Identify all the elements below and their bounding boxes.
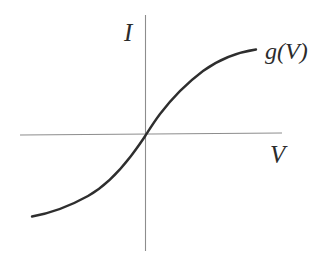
x-axis-label: V — [270, 142, 285, 167]
figure-container: I V g(V) — [0, 0, 329, 264]
curve-label: g(V) — [265, 39, 308, 63]
y-axis-label: I — [124, 20, 132, 45]
x-axis-line — [20, 133, 282, 135]
